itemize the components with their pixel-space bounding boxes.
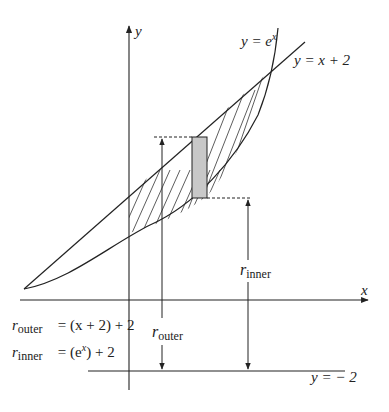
- r-sub: inner: [18, 350, 58, 362]
- equation-rhs: = (x + 2) + 2: [58, 317, 135, 333]
- equation-rhs-post: ) + 2: [86, 344, 114, 360]
- label-line-curve: y = x + 2: [294, 53, 350, 68]
- label-exp-lhs: y = e: [241, 33, 272, 49]
- representative-rectangle: [192, 137, 207, 198]
- label-r-inner: rinner: [240, 262, 271, 280]
- y-axis-label: y: [135, 24, 142, 39]
- curve-exp: [24, 28, 278, 289]
- r-sub: outer: [18, 323, 58, 335]
- label-r-outer: router: [152, 324, 183, 342]
- r-sub: inner: [246, 267, 271, 281]
- line-y-x-plus-2: [24, 42, 305, 289]
- label-exp-curve: y = ex: [241, 32, 276, 49]
- equation-r-outer: router= (x + 2) + 2: [12, 318, 134, 335]
- equation-r-inner: rinner= (ex) + 2: [12, 343, 115, 362]
- equation-rhs-pre: = (e: [58, 344, 82, 360]
- x-axis-label: x: [361, 283, 368, 298]
- r-sub: outer: [158, 329, 183, 343]
- label-exp-sup: x: [272, 31, 276, 42]
- label-y-neg2: y = − 2: [311, 370, 357, 385]
